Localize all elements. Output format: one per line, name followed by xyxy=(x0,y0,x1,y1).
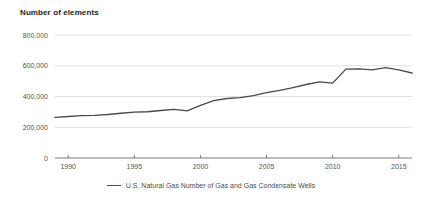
y-axis-tick-label: 200,000 xyxy=(23,124,48,131)
y-axis-tick-label: 400,000 xyxy=(23,93,48,100)
x-axis-tick-label: 1990 xyxy=(60,163,76,170)
x-axis-tick-label: 2015 xyxy=(391,163,407,170)
x-axis-tick-label: 2005 xyxy=(259,163,275,170)
plot-area: 800,000600,000400,000200,0000 1990199520… xyxy=(0,0,422,175)
y-axis-tick-label: 0 xyxy=(44,155,48,162)
y-axis-tick-label: 600,000 xyxy=(23,62,48,69)
y-axis-tick-label: 800,000 xyxy=(23,32,48,39)
series-line-us-natural-gas-wells xyxy=(55,68,412,118)
x-axis-tick-label: 2000 xyxy=(193,163,209,170)
y-axis-tick-labels: 800,000600,000400,000200,0000 xyxy=(23,32,48,162)
plot-svg: 800,000600,000400,000200,0000 1990199520… xyxy=(0,0,422,175)
chart-container: Number of elements 800,000600,000400,000… xyxy=(0,0,422,209)
gridlines-group xyxy=(55,35,412,127)
legend-item-label: U.S. Natural Gas Number of Gas and Gas C… xyxy=(126,182,315,189)
x-axis-tick-label: 1995 xyxy=(127,163,143,170)
x-axis-tick-label: 2010 xyxy=(325,163,341,170)
chart-legend: U.S. Natural Gas Number of Gas and Gas C… xyxy=(0,182,422,189)
x-axis-tick-labels: 199019952000200520102015 xyxy=(60,163,406,170)
legend-line-swatch xyxy=(107,185,121,186)
